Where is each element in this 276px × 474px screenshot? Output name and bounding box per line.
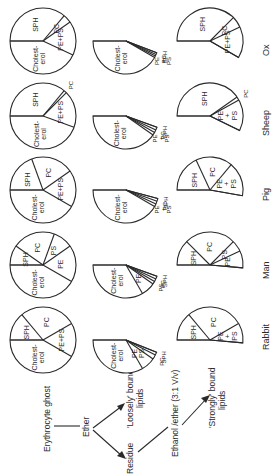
slice-label: PS (50, 246, 57, 256)
arrow-to-strongly (182, 398, 207, 425)
pie-total-pig: Cholest-erolPE+PSPCSPH (10, 157, 76, 223)
flow-strongly-label-1: 'Strongly' bound (207, 367, 217, 428)
arrowhead-loosely (117, 403, 125, 411)
flow-loosely-label-1: 'Loosely' bound (125, 369, 135, 428)
flow-step1-label: Ether (81, 417, 91, 437)
pie-loosely-rabbit: Cholest-erolPEPSPCSPH (93, 340, 167, 373)
figure-canvas: Erythrocyte ghost Ether 'Loosely' bound … (0, 0, 276, 474)
slice-label: PE+PS (57, 177, 64, 200)
flow-step2-label: Ethanol /ether (3:1 V/v) (170, 369, 180, 457)
species-label-pig: Pig (261, 188, 271, 201)
flow-diagram: Erythrocyte ghost Ether 'Loosely' bound … (42, 367, 227, 474)
species-labels: Ox Sheep Pig Man Rabbit (261, 44, 271, 350)
arrow-to-loosely (93, 406, 122, 428)
slice-label: PC (45, 168, 52, 178)
pie-outline (177, 83, 243, 130)
slice-label: SPH (161, 351, 167, 363)
pie-total-sheep: Cholest-erolPE+PSPCSPH (10, 80, 76, 149)
slice-label: PE (57, 259, 64, 269)
species-label-man: Man (261, 261, 271, 279)
flow-strongly-label-2: lipids (217, 391, 227, 410)
slice-label: SPH (190, 251, 197, 265)
slice-label: SPH (162, 51, 168, 63)
slice-label: PC (68, 80, 74, 89)
pie-total-man: Cholest-erolPEPSPCSPH (10, 232, 76, 298)
slice-label: PC (34, 243, 41, 253)
slice-label: SPH (23, 325, 30, 339)
pie-charts: Cholest-erolPE+PSPCSPHCholest-erolPE+PSP… (10, 8, 249, 373)
slice-label: SPH (199, 17, 206, 31)
pie-outline (93, 340, 157, 373)
slice-label: SPH (163, 196, 169, 208)
species-label-sheep: Sheep (261, 110, 271, 136)
slice-label: PC (210, 317, 217, 327)
slice-label: PC (209, 167, 216, 177)
pie-loosely-man: Cholest-erolPEPSPCSPH (93, 265, 168, 298)
pie-strongly-ox: SPHPCPE+PS (177, 8, 243, 58)
pie-strongly-sheep: SPHPCPE+PS (177, 83, 249, 130)
slice-label: PE (224, 257, 231, 267)
slice-label: SPH (32, 92, 39, 106)
slice-label: SPH (190, 325, 197, 339)
slice-label: PE+PS (58, 328, 65, 351)
pie-strongly-man: SPHPCPSPE (177, 232, 243, 268)
pie-strongly-rabbit: SPHPCPE+PS (177, 307, 243, 343)
pie-strongly-pig: SPHPCPE+PS (177, 157, 243, 196)
pie-outline (177, 8, 243, 58)
slice-label: PC (43, 317, 50, 327)
flow-start-label: Erythrocyte ghost (42, 385, 52, 452)
slice-label: PC (243, 89, 249, 98)
slice-label: SPH (191, 173, 198, 187)
flow-residue-label: Residue (125, 443, 135, 474)
slice-label: SPH (201, 91, 208, 105)
pie-total-rabbit: Cholest-erolPE+PSPCSPH (10, 307, 76, 373)
pie-outline (93, 265, 157, 298)
slice-label: SPH (24, 172, 31, 186)
slice-label: SPH (32, 17, 39, 31)
lipid-distribution-figure: Erythrocyte ghost Ether 'Loosely' bound … (0, 0, 276, 474)
pie-loosely-ox: Cholest-erolPE+PSPCSPH (93, 41, 172, 74)
slice-label: PEPS (131, 348, 145, 358)
pie-loosely-sheep: Cholest-erolPE+PSPCSPH (93, 116, 170, 149)
line-residue-to-ethanol (138, 427, 168, 452)
pie-total-ox: Cholest-erolPE+PSPCSPH (10, 8, 76, 74)
species-label-rabbit: Rabbit (261, 323, 271, 350)
flow-loosely-label-2: lipids (135, 389, 145, 408)
slice-label: SPH (162, 126, 168, 138)
slice-label: PE+PS (57, 100, 64, 123)
pie-loosely-pig: Cholest-erolPE+PSPCSPH (93, 190, 172, 223)
slice-label: SPH (162, 275, 168, 287)
arrow-to-residue (93, 430, 122, 456)
slice-label: PC (206, 242, 213, 252)
species-label-ox: Ox (261, 44, 271, 56)
